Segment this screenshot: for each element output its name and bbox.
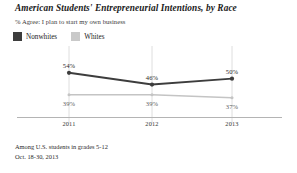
chart-legend: Nonwhites Whites	[13, 32, 119, 41]
x-axis-label: 2012	[145, 120, 158, 127]
legend-swatch-nonwhites-icon	[13, 32, 22, 41]
data-point	[231, 96, 234, 99]
data-label: 39%	[146, 100, 158, 107]
plot-area	[0, 46, 297, 124]
data-label: 50%	[226, 68, 238, 75]
legend-item-nonwhites[interactable]: Nonwhites	[13, 32, 57, 41]
legend-label-whites: Whites	[84, 33, 104, 41]
chart-subtitle: % Agree: I plan to start my own business	[15, 18, 125, 25]
chart-title: American Students' Entrepreneurial Inten…	[15, 3, 237, 13]
data-label: 39%	[63, 100, 75, 107]
chart-card: American Students' Entrepreneurial Inten…	[0, 0, 297, 173]
data-label: 46%	[146, 74, 158, 81]
x-axis-labels: 201120122013	[0, 120, 297, 132]
x-axis-line	[17, 117, 282, 118]
footer-line-1: Among U.S. students in grades 5-12	[15, 142, 108, 152]
x-axis-label: 2013	[225, 120, 238, 127]
legend-label-nonwhites: Nonwhites	[26, 33, 57, 41]
data-point	[150, 82, 154, 86]
data-point	[68, 93, 71, 96]
data-point	[230, 77, 234, 81]
data-label: 54%	[63, 62, 75, 69]
footer-line-2: Oct. 18-30, 2013	[15, 152, 108, 162]
legend-swatch-whites-icon	[71, 32, 80, 41]
x-axis-label: 2011	[62, 120, 75, 127]
data-point	[151, 93, 154, 96]
data-label: 37%	[226, 103, 238, 110]
series-line-whites	[69, 95, 232, 98]
data-point	[67, 71, 71, 75]
plot-svg	[0, 46, 297, 124]
chart-footer: Among U.S. students in grades 5-12 Oct. …	[15, 142, 108, 161]
legend-item-whites[interactable]: Whites	[71, 32, 104, 41]
